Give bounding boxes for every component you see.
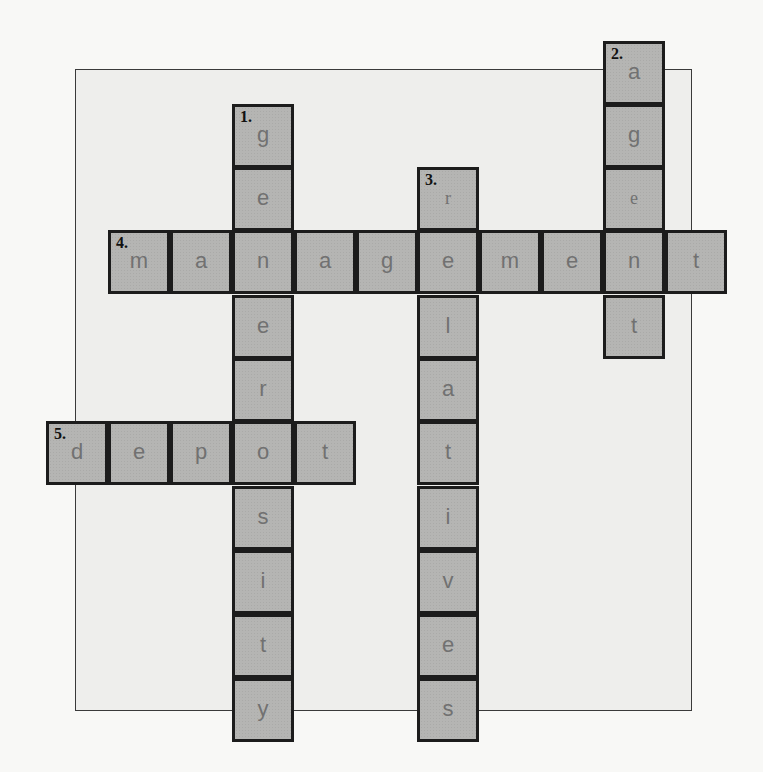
cell-letter: e [235, 312, 291, 340]
crossword-cell[interactable]: i [417, 486, 479, 550]
crossword-cell[interactable]: t [665, 230, 727, 294]
cell-letter: g [359, 247, 415, 275]
crossword-cell[interactable]: 3.r [417, 167, 479, 231]
crossword-cell[interactable]: v [417, 550, 479, 614]
cell-letter: t [668, 247, 724, 275]
crossword-cell[interactable]: t [294, 421, 356, 485]
crossword-cell[interactable]: t [232, 614, 294, 678]
cell-letter: l [420, 312, 476, 340]
cell-letter: i [235, 567, 291, 595]
cell-letter: p [173, 438, 229, 466]
crossword-cell[interactable]: m [479, 230, 541, 294]
crossword-cell[interactable]: t [417, 421, 479, 485]
crossword-cell[interactable]: s [417, 678, 479, 742]
cell-letter: a [297, 247, 353, 275]
crossword-cell[interactable]: n [603, 230, 665, 294]
crossword-cell[interactable]: g [603, 104, 665, 168]
crossword-cell[interactable]: y [232, 678, 294, 742]
crossword-page: 2.a1.gge3.re4.managementeltra5.depottsii… [0, 0, 763, 772]
cell-letter: n [606, 247, 662, 275]
cell-letter: i [420, 503, 476, 531]
crossword-cell[interactable]: e [603, 167, 665, 231]
crossword-cell[interactable]: 1.g [232, 104, 294, 168]
crossword-cell[interactable]: 2.a [603, 41, 665, 105]
cell-letter: e [606, 184, 662, 212]
cell-letter: r [235, 375, 291, 403]
cell-letter: m [482, 247, 538, 275]
crossword-cell[interactable]: i [232, 550, 294, 614]
cell-letter: e [235, 184, 291, 212]
cell-letter: e [420, 247, 476, 275]
crossword-cell[interactable]: p [170, 421, 232, 485]
cell-letter: n [235, 247, 291, 275]
cell-letter: g [235, 121, 291, 149]
cell-letter: y [235, 695, 291, 723]
cell-letter: m [111, 247, 167, 275]
cell-letter: t [606, 312, 662, 340]
cell-letter: a [606, 58, 662, 86]
crossword-cell[interactable]: t [603, 295, 665, 359]
cell-letter: g [606, 121, 662, 149]
crossword-cell[interactable]: n [232, 230, 294, 294]
cell-letter: e [111, 438, 167, 466]
cell-letter: r [420, 184, 476, 212]
cell-letter: e [544, 247, 600, 275]
cell-letter: e [420, 631, 476, 659]
crossword-cell[interactable]: 4.m [108, 230, 170, 294]
cell-letter: d [49, 438, 105, 466]
cell-letter: o [235, 438, 291, 466]
crossword-cell[interactable]: e [108, 421, 170, 485]
crossword-cell[interactable]: e [417, 230, 479, 294]
cell-letter: v [420, 567, 476, 595]
cell-letter: t [297, 438, 353, 466]
crossword-background-panel [75, 69, 692, 711]
cell-letter: s [420, 695, 476, 723]
cell-letter: a [173, 247, 229, 275]
crossword-cell[interactable]: 5.d [46, 421, 108, 485]
cell-letter: s [235, 503, 291, 531]
crossword-cell[interactable]: a [417, 358, 479, 422]
cell-letter: t [235, 631, 291, 659]
crossword-cell[interactable]: s [232, 486, 294, 550]
cell-letter: t [420, 438, 476, 466]
crossword-cell[interactable]: e [541, 230, 603, 294]
crossword-cell[interactable]: o [232, 421, 294, 485]
crossword-cell[interactable]: a [294, 230, 356, 294]
crossword-cell[interactable]: e [232, 167, 294, 231]
crossword-cell[interactable]: r [232, 358, 294, 422]
crossword-cell[interactable]: a [170, 230, 232, 294]
crossword-cell[interactable]: l [417, 295, 479, 359]
cell-letter: a [420, 375, 476, 403]
crossword-cell[interactable]: g [356, 230, 418, 294]
crossword-cell[interactable]: e [417, 614, 479, 678]
crossword-cell[interactable]: e [232, 295, 294, 359]
